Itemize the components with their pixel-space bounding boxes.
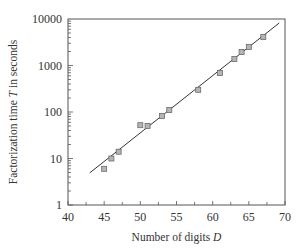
data-point	[232, 56, 237, 61]
data-point	[246, 44, 251, 49]
y-tick-label: 1	[56, 198, 62, 212]
y-tick-label: 10	[50, 152, 62, 166]
x-tick-label: 65	[243, 210, 255, 224]
x-tick-label: 45	[98, 210, 110, 224]
data-point	[196, 87, 201, 92]
x-tick-label: 50	[134, 210, 146, 224]
x-axis-ticks: 40455055606570	[62, 201, 291, 224]
x-axis-label: Number of digits D	[132, 231, 222, 244]
data-point	[217, 70, 222, 75]
data-point	[116, 149, 121, 154]
data-point	[167, 108, 172, 113]
y-axis-ticks: 110100100010000	[32, 12, 73, 212]
data-point	[145, 123, 150, 128]
x-tick-label: 55	[171, 210, 183, 224]
chart-svg: 40455055606570 110100100010000 Number of…	[0, 0, 304, 251]
y-tick-label: 100	[44, 105, 62, 119]
y-axis-label: Factorization time T in seconds	[7, 39, 19, 184]
x-tick-label: 40	[62, 210, 74, 224]
x-tick-label: 60	[207, 210, 219, 224]
data-point	[261, 35, 266, 40]
y-tick-label: 10000	[32, 12, 62, 26]
x-tick-label: 70	[279, 210, 291, 224]
y-tick-label: 1000	[38, 59, 62, 73]
data-point	[109, 156, 114, 161]
data-point	[239, 50, 244, 55]
data-point	[102, 166, 107, 171]
plot-frame	[68, 19, 285, 205]
data-point	[160, 114, 165, 119]
data-point	[138, 123, 143, 128]
data-points	[102, 35, 266, 172]
